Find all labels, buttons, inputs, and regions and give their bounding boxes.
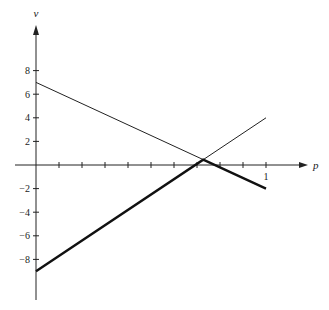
y-tick-label: 6: [25, 89, 30, 100]
axes: [15, 25, 308, 300]
y-tick-label: −8: [19, 254, 30, 265]
x-axis-arrow-icon: [299, 162, 308, 168]
y-tick-label: −2: [19, 183, 30, 194]
x-tick-label: 1: [264, 171, 269, 182]
lower-envelope-line: [36, 160, 266, 272]
y-tick-label: 2: [25, 136, 30, 147]
axis-labels: 18642−2−4−6−8pv: [19, 7, 319, 265]
y-axis-arrow-icon: [33, 25, 39, 35]
y-axis-label: v: [34, 7, 39, 19]
y-tick-label: 8: [25, 65, 30, 76]
y-tick-label: −4: [19, 207, 30, 218]
plot-lines: [36, 82, 266, 271]
chart: 18642−2−4−6−8pv: [0, 0, 329, 310]
y-tick-label: 4: [25, 112, 30, 123]
x-axis-label: p: [312, 159, 319, 171]
y-tick-label: −6: [19, 230, 30, 241]
